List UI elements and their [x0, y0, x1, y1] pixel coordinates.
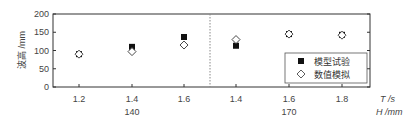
y-tick-label: 200: [34, 9, 49, 19]
x-tick-label: 1.4: [126, 94, 139, 104]
filled-square-icon: [181, 34, 187, 40]
x-tick-label: 1.6: [283, 94, 296, 104]
open-diamond-icon: [232, 36, 240, 44]
y-tick-label: 150: [34, 27, 49, 37]
legend-label-simulation: 数值模拟: [314, 69, 350, 80]
x-tick-label: 1.8: [336, 94, 349, 104]
x-tick-label: 1.2: [73, 94, 86, 104]
scatter-chart: 波高 /mm 050100150200 1.21.41.61.41.61.8 1…: [0, 0, 412, 124]
open-diamond-icon: [180, 41, 188, 49]
y-tick-label: 0: [44, 82, 49, 92]
x-axis-title-height: H /mm: [376, 107, 403, 117]
x-tick-label: 1.6: [178, 94, 191, 104]
legend: 模型试验 数值模拟: [285, 53, 367, 83]
y-axis-title: 波高 /mm: [16, 31, 27, 69]
y-tick-label: 100: [34, 46, 49, 56]
filled-square-icon: [298, 58, 304, 64]
x-axis-title-period: T /s: [380, 94, 395, 104]
legend-label-experiment: 模型试验: [314, 56, 350, 67]
y-tick-label: 50: [39, 64, 49, 74]
group-label-140: 140: [124, 107, 139, 117]
group-label-170: 170: [281, 107, 296, 117]
x-tick-label: 1.4: [230, 94, 243, 104]
